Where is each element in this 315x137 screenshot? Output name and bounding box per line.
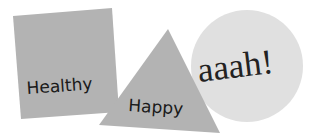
triangle-label: Happy	[128, 95, 184, 119]
square-shape	[13, 8, 119, 119]
shapes-diagram: Healthy Happy aaah!	[0, 0, 315, 137]
diagram-canvas: Healthy Happy aaah!	[0, 0, 315, 137]
